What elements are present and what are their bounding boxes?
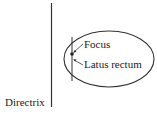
latus-rectum-label: Latus rectum xyxy=(84,58,142,70)
ellipse-diagram: Focus Latus rectum Directrix xyxy=(0,0,157,118)
focus-label: Focus xyxy=(84,38,110,50)
directrix-label: Directrix xyxy=(5,96,45,108)
